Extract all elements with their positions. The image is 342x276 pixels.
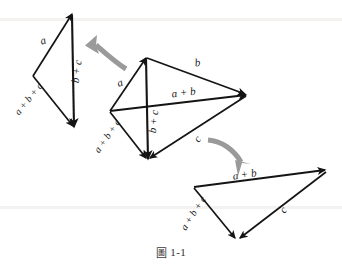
label-a-left: a — [38, 33, 47, 46]
label-a-middle: a — [115, 75, 125, 88]
label-a-plus-b-plus-c-middle: a + b + c — [92, 117, 123, 155]
figure-number: 1-1 — [170, 246, 186, 258]
label-b-plus-c-left: b + c — [68, 59, 83, 84]
label-b-plus-c-middle: b + c — [146, 109, 160, 134]
label-a-plus-b-plus-c-left: a + b + c — [12, 80, 45, 117]
vector-a-plus-b-right — [194, 170, 325, 187]
label-c-middle: c — [191, 133, 203, 145]
label-a-plus-b-plus-c-right: a + b + c — [178, 194, 208, 232]
vector-addition-diagram: a b + c a + b + c a b a + b b + c c a + … — [0, 0, 342, 276]
figure-caption: 圖1-1 — [0, 244, 342, 260]
curved-arrow-to-left-triangle — [85, 35, 126, 69]
vector-a-middle — [110, 58, 146, 111]
label-a-plus-b-middle: a + b — [171, 85, 197, 100]
label-b-middle: b — [194, 56, 202, 69]
vector-b-plus-c-middle — [146, 58, 148, 159]
figure-cjk-character-icon: 圖 — [156, 244, 168, 260]
vector-c-right — [240, 172, 326, 238]
right-vector-triangle: a + b c a + b + c — [178, 166, 326, 238]
left-vector-triangle: a b + c a + b + c — [12, 14, 84, 127]
figure-container: a b + c a + b + c a b a + b b + c c a + … — [0, 0, 342, 276]
vector-a-left — [33, 14, 72, 76]
